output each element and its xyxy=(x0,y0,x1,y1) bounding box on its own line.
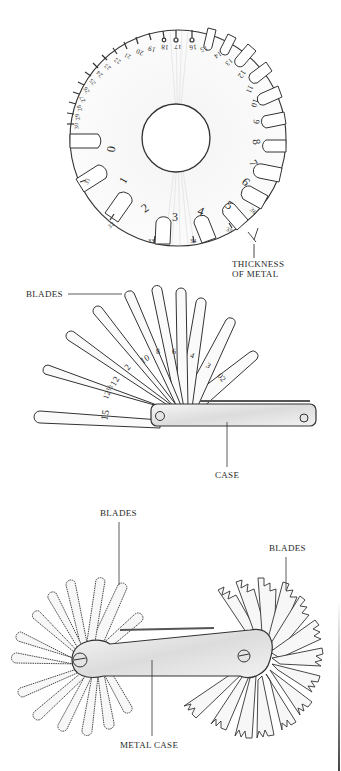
gauge-number-3: 3 xyxy=(172,212,178,222)
blade-number-6: 6 xyxy=(172,347,177,357)
gauge-number-34: 34 xyxy=(190,236,197,246)
blade-number-15: 15 xyxy=(99,409,111,421)
gauge-number-18: 18 xyxy=(161,42,169,53)
blades-label-feeler: BLADES xyxy=(26,289,63,299)
gauge-number-9: 9 xyxy=(251,119,261,125)
page-edge-rule xyxy=(338,600,340,771)
metal-case-label: METAL CASE xyxy=(120,740,178,750)
blades-label-left: BLADES xyxy=(100,508,137,518)
case-label: CASE xyxy=(215,470,239,480)
gauge-number-33: 33 xyxy=(148,236,155,246)
thickness-of-metal-label-line1: THICKNESS xyxy=(232,259,284,269)
gauge-number-17: 17 xyxy=(174,42,182,52)
blades-label-right: BLADES xyxy=(269,543,306,553)
center-hole xyxy=(142,104,210,172)
gauge-number-30: 30 xyxy=(71,122,82,130)
wire-gauge-illustration xyxy=(0,0,341,771)
thickness-of-metal-label-line2: OF METAL xyxy=(232,269,278,279)
gauge-number-16: 16 xyxy=(189,42,197,53)
